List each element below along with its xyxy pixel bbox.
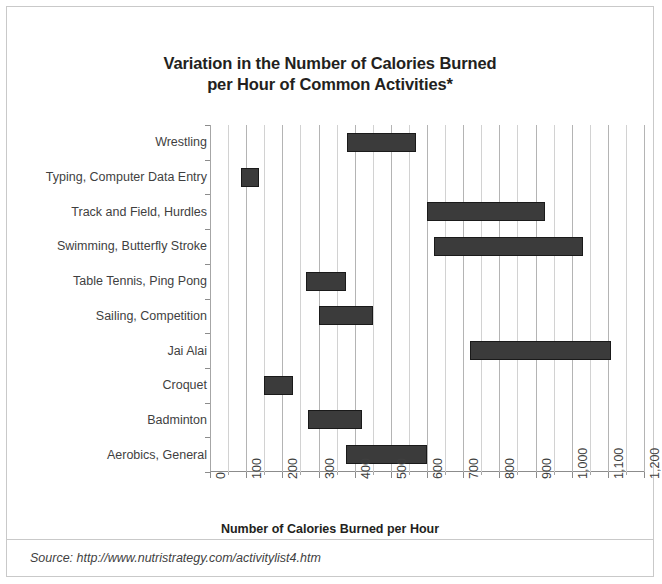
gridline-600 — [427, 125, 428, 472]
y-tick-5 — [205, 299, 210, 300]
x-tick-label-500: 500 — [396, 458, 408, 479]
y-tick-9 — [205, 437, 210, 438]
y-tick-2 — [205, 194, 210, 195]
x-tick-750 — [481, 472, 482, 475]
bar-table-tennis-ping-pong — [306, 272, 346, 291]
category-label-swimming-butterfly-stroke: Swimming, Butterfly Stroke — [27, 239, 207, 253]
gridline-50 — [228, 125, 229, 472]
x-tick-1150 — [626, 472, 627, 475]
gridline-550 — [409, 125, 410, 472]
x-tick-400 — [355, 472, 356, 478]
chart-page: Variation in the Number of Calories Burn… — [0, 0, 662, 584]
bar-jai-alai — [470, 341, 611, 360]
gridline-1050 — [590, 125, 591, 472]
x-tick-100 — [246, 472, 247, 478]
bar-wrestling — [347, 133, 416, 152]
gridline-1200 — [644, 125, 645, 472]
x-tick-label-300: 300 — [324, 458, 336, 479]
bar-sailing-competition — [319, 306, 373, 325]
x-tick-label-0: 0 — [215, 472, 227, 479]
bar-typing-computer-data-entry — [241, 168, 259, 187]
gridline-650 — [445, 125, 446, 472]
category-label-typing-computer-data-entry: Typing, Computer Data Entry — [27, 170, 207, 184]
y-tick-7 — [205, 368, 210, 369]
chart-card: Variation in the Number of Calories Burn… — [7, 7, 653, 539]
y-tick-6 — [205, 333, 210, 334]
gridline-700 — [463, 125, 464, 472]
bar-swimming-butterfly-stroke — [434, 237, 582, 256]
x-tick-label-700: 700 — [468, 458, 480, 479]
x-tick-label-900: 900 — [541, 458, 553, 479]
x-tick-150 — [264, 472, 265, 475]
x-tick-500 — [391, 472, 392, 478]
bar-croquet — [264, 376, 293, 395]
x-tick-1000 — [572, 472, 573, 478]
category-axis-labels: WrestlingTyping, Computer Data EntryTrac… — [22, 125, 207, 472]
x-tick-200 — [282, 472, 283, 478]
x-tick-700 — [463, 472, 464, 478]
x-tick-50 — [228, 472, 229, 475]
chart-title-line-2: per Hour of Common Activities* — [7, 74, 653, 95]
gridline-950 — [554, 125, 555, 472]
x-axis-title: Number of Calories Burned per Hour — [7, 522, 653, 536]
category-label-jai-alai: Jai Alai — [27, 344, 207, 358]
gridline-1000 — [572, 125, 573, 472]
source-note: Source: http://www.nutristrategy.com/act… — [30, 551, 321, 565]
y-tick-4 — [205, 264, 210, 265]
x-tick-label-1100: 1,100 — [613, 448, 625, 479]
x-tick-label-400: 400 — [360, 458, 372, 479]
gridline-500 — [391, 125, 392, 472]
chart-title-line-1: Variation in the Number of Calories Burn… — [7, 53, 653, 74]
category-label-croquet: Croquet — [27, 378, 207, 392]
gridline-800 — [499, 125, 500, 472]
gridline-450 — [373, 125, 374, 472]
category-label-badminton: Badminton — [27, 413, 207, 427]
bar-track-and-field-hurdles — [427, 202, 545, 221]
category-label-aerobics-general: Aerobics, General — [27, 448, 207, 462]
chart-title: Variation in the Number of Calories Burn… — [7, 53, 653, 95]
x-axis-tick-labels: 01002003004005006007008009001,0001,1001,… — [210, 479, 644, 527]
x-tick-250 — [300, 472, 301, 475]
y-tick-8 — [205, 403, 210, 404]
x-tick-900 — [536, 472, 537, 478]
bar-aerobics-general — [346, 445, 427, 464]
gridline-750 — [481, 125, 482, 472]
x-tick-label-800: 800 — [504, 458, 516, 479]
gridline-1100 — [608, 125, 609, 472]
x-tick-650 — [445, 472, 446, 475]
x-tick-label-200: 200 — [287, 458, 299, 479]
gridline-900 — [536, 125, 537, 472]
gridline-850 — [517, 125, 518, 472]
x-tick-label-1200: 1,200 — [649, 448, 661, 479]
x-tick-300 — [319, 472, 320, 478]
gridline-200 — [282, 125, 283, 472]
x-tick-0 — [210, 472, 211, 478]
gridline-250 — [300, 125, 301, 472]
gridline-1150 — [626, 125, 627, 472]
category-label-track-and-field-hurdles: Track and Field, Hurdles — [27, 205, 207, 219]
footer-divider — [7, 539, 653, 540]
y-tick-0 — [205, 125, 210, 126]
y-tick-3 — [205, 229, 210, 230]
x-tick-label-600: 600 — [432, 458, 444, 479]
category-label-table-tennis-ping-pong: Table Tennis, Ping Pong — [27, 274, 207, 288]
category-label-sailing-competition: Sailing, Competition — [27, 309, 207, 323]
x-tick-600 — [427, 472, 428, 478]
category-label-wrestling: Wrestling — [27, 135, 207, 149]
x-tick-1100 — [608, 472, 609, 478]
plot-area — [210, 125, 644, 472]
bar-badminton — [308, 410, 362, 429]
y-tick-1 — [205, 160, 210, 161]
x-tick-1200 — [644, 472, 645, 478]
gridline-150 — [264, 125, 265, 472]
x-tick-label-1000: 1,000 — [577, 448, 589, 479]
x-tick-850 — [517, 472, 518, 475]
x-tick-550 — [409, 472, 410, 475]
x-tick-label-100: 100 — [251, 458, 263, 479]
x-tick-800 — [499, 472, 500, 478]
